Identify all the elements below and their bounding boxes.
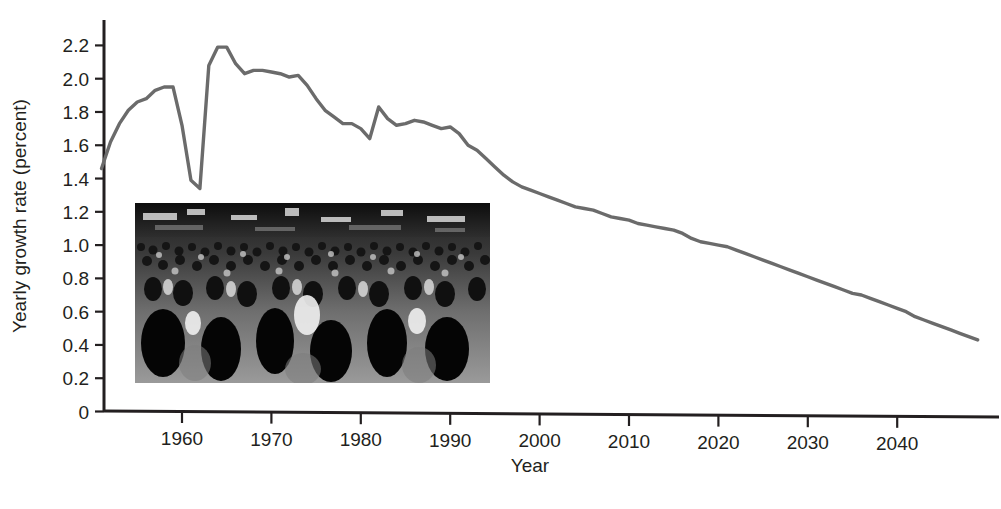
- population-growth-rate-figure: 00.20.40.60.81.01.21.41.61.82.02.2 19601…: [0, 0, 1001, 509]
- crowd-photograph-image: [135, 203, 490, 383]
- y-axis-tick-label: 0.4: [63, 335, 90, 356]
- x-axis-tick-label: 2010: [608, 431, 650, 452]
- x-axis-tick-label: 2020: [697, 432, 739, 453]
- y-axis-tick-label: 0.2: [63, 368, 89, 389]
- y-axis-tick-label: 1.6: [63, 135, 89, 156]
- x-axis-tick-label: 1960: [161, 428, 203, 449]
- y-axis-tick-label: 1.8: [63, 102, 89, 123]
- y-axis-tick-label: 1.0: [63, 235, 89, 256]
- x-axis-tick-label: 1970: [250, 429, 292, 450]
- y-axis-tick-label: 1.4: [63, 169, 90, 190]
- y-axis-tick-label: 1.2: [63, 202, 89, 223]
- x-axis-tick-label: 1980: [340, 429, 382, 450]
- y-axis-tick-labels: 00.20.40.60.81.01.21.41.61.82.02.2: [63, 35, 90, 422]
- x-axis-tick-label: 1990: [429, 430, 471, 451]
- y-axis-tick-label: 2.0: [63, 69, 89, 90]
- x-axis-tick-label: 2030: [787, 432, 829, 453]
- y-axis-title: Yearly growth rate (percent): [9, 99, 30, 333]
- y-axis-tick-label: 2.2: [63, 35, 89, 56]
- crowd-photograph-inset: [135, 203, 490, 383]
- x-axis-line: [104, 411, 999, 417]
- y-axis-tick-label: 0.8: [63, 268, 89, 289]
- x-axis-tick-label: 2000: [518, 430, 560, 451]
- x-axis-tick-labels: 196019701980199020002010202020302040: [161, 428, 918, 454]
- y-axis-tick-label: 0: [78, 402, 89, 423]
- x-axis-title: Year: [511, 455, 550, 476]
- x-axis-tick-label: 2040: [876, 433, 918, 454]
- y-axis-tick-label: 0.6: [63, 302, 89, 323]
